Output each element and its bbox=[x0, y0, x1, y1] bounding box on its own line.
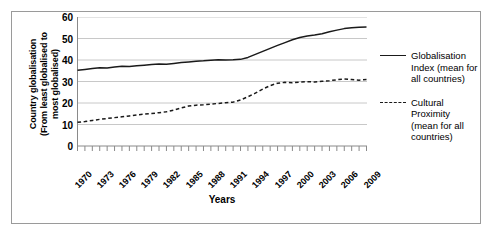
x-axis-tick-label: 2003 bbox=[317, 169, 338, 190]
chart-canvas bbox=[77, 17, 367, 163]
y-axis-tick-label: 50 bbox=[62, 33, 73, 44]
y-axis-tick-label: 20 bbox=[62, 98, 73, 109]
y-axis-title-line-2: (From least globalised to bbox=[39, 32, 49, 136]
x-axis-tick-label: 2009 bbox=[361, 169, 382, 190]
x-axis-tick-label: 1994 bbox=[250, 169, 271, 190]
y-axis-title: Country globalisation(From least globali… bbox=[27, 9, 61, 159]
legend-label: Cultural Proximity (mean for all countri… bbox=[411, 97, 478, 143]
x-axis-tick-label: 1970 bbox=[72, 169, 93, 190]
legend-item: Globalisation Index (mean for all countr… bbox=[380, 50, 478, 85]
data-series-layer bbox=[78, 27, 367, 122]
chart-figure: Country globalisation(From least globali… bbox=[11, 11, 481, 224]
chart-legend: Globalisation Index (mean for all countr… bbox=[380, 50, 478, 155]
legend-swatch-line bbox=[380, 55, 406, 56]
y-axis-tick-label: 40 bbox=[62, 55, 73, 66]
y-axis-tick-label: 0 bbox=[67, 141, 73, 152]
x-axis-minor-ticks bbox=[78, 146, 367, 151]
y-axis-title-text: Country globalisation(From least globali… bbox=[28, 32, 61, 136]
legend-label: Globalisation Index (mean for all countr… bbox=[411, 50, 478, 85]
y-axis-tick-label: 30 bbox=[62, 76, 73, 87]
legend-swatch-dashed-icon bbox=[380, 97, 406, 108]
x-axis-tick-label: 1988 bbox=[206, 169, 227, 190]
series-line-2 bbox=[78, 79, 367, 122]
y-axis-tick-label: 60 bbox=[62, 12, 73, 23]
legend-swatch-line bbox=[380, 102, 406, 103]
series-line-1 bbox=[78, 27, 367, 70]
x-axis-tick-label: 1976 bbox=[117, 169, 138, 190]
x-axis-tick-label: 1973 bbox=[95, 169, 116, 190]
x-axis-title: Years bbox=[77, 194, 367, 205]
x-axis-tick-label: 1985 bbox=[183, 169, 204, 190]
plot-area: 0102030405060 bbox=[77, 17, 367, 163]
x-axis-tick-label: 2006 bbox=[339, 169, 360, 190]
x-axis-tick-label: 2000 bbox=[295, 169, 316, 190]
x-axis-tick-label: 1997 bbox=[272, 169, 293, 190]
y-axis-title-line-3: most globalised) bbox=[50, 49, 60, 119]
x-axis-tick-label: 1982 bbox=[161, 169, 182, 190]
legend-item: Cultural Proximity (mean for all countri… bbox=[380, 97, 478, 143]
y-axis-title-line-1: Country globalisation bbox=[28, 39, 38, 129]
y-axis-tick-label: 10 bbox=[62, 119, 73, 130]
x-axis-tick-label: 1991 bbox=[228, 169, 249, 190]
legend-swatch-solid-icon bbox=[380, 50, 406, 61]
x-axis-tick-label: 1979 bbox=[139, 169, 160, 190]
